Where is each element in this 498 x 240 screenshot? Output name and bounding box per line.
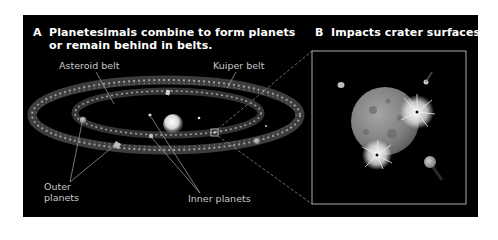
panel-a-title-line2: or remain behind in belts. bbox=[33, 39, 296, 52]
label-outer-planets-line2: planets bbox=[44, 192, 79, 203]
sun bbox=[163, 114, 183, 134]
panel-a-letter: A bbox=[33, 26, 49, 39]
outer-planet bbox=[265, 125, 267, 127]
label-inner-planets: Inner planets bbox=[188, 193, 251, 204]
label-outer-planets-line1: Outer bbox=[44, 181, 79, 192]
impact-burst bbox=[362, 140, 392, 170]
inner-planet bbox=[149, 134, 153, 138]
outer-planet bbox=[254, 138, 260, 144]
label-kuiper-belt: Kuiper belt bbox=[213, 60, 264, 71]
inner-planet bbox=[148, 113, 151, 116]
kuiper-object bbox=[213, 131, 215, 133]
label-outer-planets: Outer planets bbox=[44, 181, 79, 203]
incoming-asteroid bbox=[338, 82, 345, 88]
panel-b-title: Impacts crater surfaces. bbox=[331, 26, 484, 39]
outer-planet bbox=[80, 117, 86, 123]
inner-planet bbox=[198, 117, 201, 120]
panel-a-heading: APlanetesimals combine to form planets o… bbox=[33, 26, 296, 52]
label-asteroid-belt: Asteroid belt bbox=[59, 60, 119, 71]
panel-b-heading: BImpacts crater surfaces. bbox=[315, 26, 484, 39]
panel-b-letter: B bbox=[315, 26, 331, 39]
panel-a-title-line1: Planetesimals combine to form planets bbox=[49, 26, 296, 39]
